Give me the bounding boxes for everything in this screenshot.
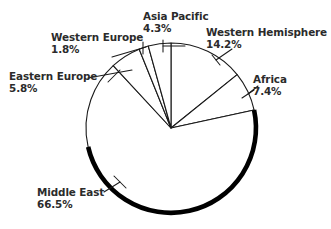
label-africa-value: 7.4% [253,85,287,97]
label-western-hemisphere-name: Western Hemisphere [206,26,327,38]
label-asia-pacific-name: Asia Pacific [143,10,209,22]
label-africa-name: Africa [253,73,287,85]
label-western-europe-name: Western Europe [51,31,143,43]
label-middle-east: Middle East 66.5% [37,186,104,211]
label-asia-pacific: Asia Pacific 4.3% [143,10,209,35]
label-western-europe: Western Europe 1.8% [51,31,143,56]
label-western-hemisphere-value: 14.2% [206,38,327,50]
label-africa: Africa 7.4% [253,73,287,98]
label-eastern-europe: Eastern Europe 5.8% [9,70,97,95]
label-western-europe-value: 1.8% [51,43,143,55]
label-asia-pacific-value: 4.3% [143,22,209,34]
label-middle-east-value: 66.5% [37,198,104,210]
label-eastern-europe-name: Eastern Europe [9,70,97,82]
pie-chart-figure: Asia Pacific 4.3% Western Hemisphere 14.… [0,0,331,229]
label-eastern-europe-value: 5.8% [9,82,97,94]
label-western-hemisphere: Western Hemisphere 14.2% [206,26,327,51]
label-middle-east-name: Middle East [37,186,104,198]
